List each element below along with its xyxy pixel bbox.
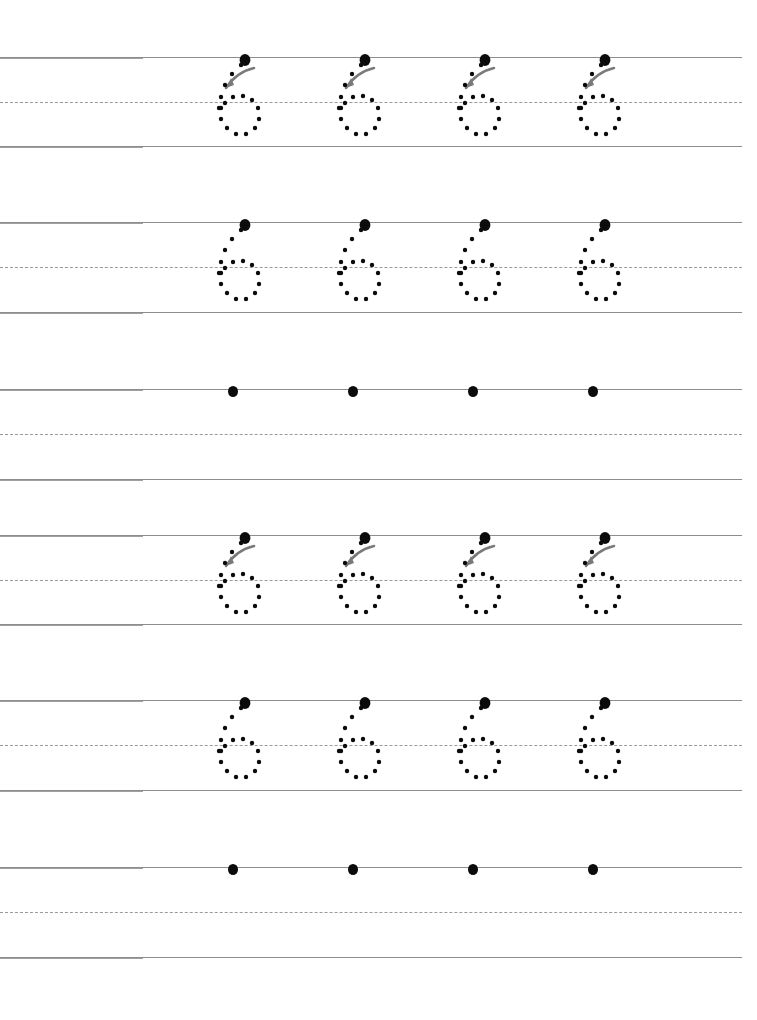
stroke-start-dot	[228, 864, 238, 875]
dotted-digit-six[interactable]	[441, 700, 505, 792]
dotted-digit-six[interactable]	[321, 700, 385, 792]
digit-six-svg	[561, 535, 625, 627]
dotted-digit-six[interactable]	[321, 535, 385, 627]
worksheet-page	[0, 0, 757, 1020]
digit-six-svg	[201, 535, 265, 627]
digit-six-dot-outline	[337, 228, 381, 301]
stroke-direction-arrow-icon	[346, 546, 374, 566]
rule-left-segment	[0, 223, 143, 224]
digit-six-svg	[561, 57, 625, 149]
digit-six-svg	[561, 700, 625, 792]
top-rule-line	[0, 867, 742, 868]
dotted-digit-six[interactable]	[561, 535, 625, 627]
dotted-digit-six[interactable]	[561, 222, 625, 314]
stroke-start-dot	[348, 386, 358, 397]
stroke-start-dot	[240, 219, 251, 231]
dotted-digit-six[interactable]	[561, 700, 625, 792]
digit-six-dot-outline	[457, 228, 501, 301]
stroke-direction-arrow-icon	[466, 68, 494, 88]
stroke-start-dot	[360, 697, 371, 709]
stroke-start-dot	[468, 386, 478, 397]
digit-six-svg	[441, 57, 505, 149]
stroke-start-dot	[480, 532, 491, 544]
stroke-start-dot	[588, 864, 598, 875]
stroke-start-dot	[228, 386, 238, 397]
baseline-rule-line	[0, 957, 742, 958]
stroke-direction-arrow-icon	[226, 546, 254, 566]
rule-left-segment	[0, 147, 143, 148]
rule-left-segment	[0, 791, 143, 792]
dotted-digit-six[interactable]	[441, 222, 505, 314]
stroke-start-dot	[360, 219, 371, 231]
digit-six-svg	[321, 57, 385, 149]
rule-left-segment	[0, 480, 143, 481]
stroke-direction-arrow-icon	[226, 68, 254, 88]
digit-six-svg	[201, 700, 265, 792]
stroke-direction-arrow-icon	[466, 546, 494, 566]
stroke-direction-arrow-icon	[346, 68, 374, 88]
stroke-start-dot	[480, 219, 491, 231]
dotted-digit-six[interactable]	[321, 57, 385, 149]
dotted-digit-six[interactable]	[441, 535, 505, 627]
rule-left-segment	[0, 625, 143, 626]
digit-six-dot-outline	[217, 228, 261, 301]
digit-six-svg	[321, 535, 385, 627]
digit-six-svg	[561, 222, 625, 314]
dotted-digit-six[interactable]	[321, 222, 385, 314]
stroke-start-dot	[600, 54, 611, 66]
digit-six-dot-outline	[577, 706, 621, 779]
rule-left-segment	[0, 868, 143, 869]
top-rule-line	[0, 389, 742, 390]
stroke-start-dot	[600, 219, 611, 231]
stroke-start-dot	[348, 864, 358, 875]
digit-six-svg	[441, 222, 505, 314]
stroke-start-dot	[360, 54, 371, 66]
stroke-start-dot	[360, 532, 371, 544]
stroke-start-dot	[240, 54, 251, 66]
stroke-start-dot	[240, 532, 251, 544]
digit-six-dot-outline	[577, 228, 621, 301]
rule-left-segment	[0, 958, 143, 959]
stroke-direction-arrow-icon	[586, 68, 614, 88]
stroke-start-dot	[480, 54, 491, 66]
digit-six-svg	[201, 222, 265, 314]
stroke-start-dot	[240, 697, 251, 709]
rule-left-segment	[0, 58, 143, 59]
rule-left-segment	[0, 390, 143, 391]
digit-six-svg	[441, 700, 505, 792]
digit-six-svg	[201, 57, 265, 149]
dotted-digit-six[interactable]	[201, 535, 265, 627]
digit-six-dot-outline	[217, 706, 261, 779]
dotted-digit-six[interactable]	[441, 57, 505, 149]
stroke-start-dot	[480, 697, 491, 709]
baseline-rule-line	[0, 479, 742, 480]
digit-six-svg	[441, 535, 505, 627]
digit-six-dot-outline	[457, 706, 501, 779]
rule-left-segment	[0, 536, 143, 537]
dotted-digit-six[interactable]	[201, 57, 265, 149]
stroke-start-dot	[600, 532, 611, 544]
digit-six-svg	[321, 700, 385, 792]
dotted-digit-six[interactable]	[201, 222, 265, 314]
midline-dashed-rule	[0, 912, 742, 913]
stroke-start-dot	[588, 386, 598, 397]
stroke-direction-arrow-icon	[586, 546, 614, 566]
rule-left-segment	[0, 313, 143, 314]
stroke-start-dot	[468, 864, 478, 875]
dotted-digit-six[interactable]	[561, 57, 625, 149]
midline-dashed-rule	[0, 434, 742, 435]
stroke-start-dot	[600, 697, 611, 709]
dotted-digit-six[interactable]	[201, 700, 265, 792]
digit-six-svg	[321, 222, 385, 314]
rule-left-segment	[0, 701, 143, 702]
digit-six-dot-outline	[337, 706, 381, 779]
